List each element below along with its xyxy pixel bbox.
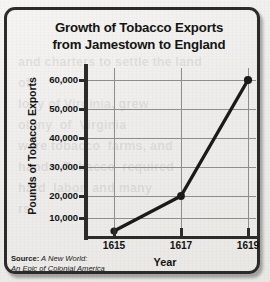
chart-figure: and charters to settle the land of lony … xyxy=(0,0,270,282)
y-axis-title: Pounds of Tobacco Exports xyxy=(26,66,38,226)
y-tick-30000 xyxy=(79,166,88,169)
x-tick-label-1615: 1615 xyxy=(91,240,137,251)
y-tick-20000 xyxy=(79,195,88,198)
chart-title-line-1: Growth of Tobacco Exports xyxy=(55,20,223,35)
chart-title: Growth of Tobacco Exports from Jamestown… xyxy=(24,20,254,53)
source-label: Source: xyxy=(11,254,39,263)
x-axis-title: Year xyxy=(130,256,200,268)
x-tick-1615 xyxy=(113,228,116,237)
vgridline-1615 xyxy=(114,68,115,237)
vgridline-1619 xyxy=(248,68,249,237)
source-line-2: An Epic of Colonial America xyxy=(11,264,105,273)
x-tick-label-1617: 1617 xyxy=(158,240,204,251)
x-tick-1617 xyxy=(180,228,183,237)
source-line-1: A New World: xyxy=(41,254,87,263)
plot-area xyxy=(88,68,256,237)
y-tick-60000 xyxy=(79,79,88,82)
x-axis-line xyxy=(86,236,258,239)
x-tick-label-1619: 1619 xyxy=(225,240,270,251)
x-tick-1619 xyxy=(247,228,250,237)
y-tick-50000 xyxy=(79,108,88,111)
y-tick-10000 xyxy=(79,217,88,220)
source-citation: Source: A New World: An Epic of Colonial… xyxy=(11,254,131,273)
y-axis-line xyxy=(84,64,88,240)
vgridline-1617 xyxy=(181,68,182,237)
y-tick-40000 xyxy=(79,137,88,140)
chart-title-line-2: from Jamestown to England xyxy=(24,37,254,54)
